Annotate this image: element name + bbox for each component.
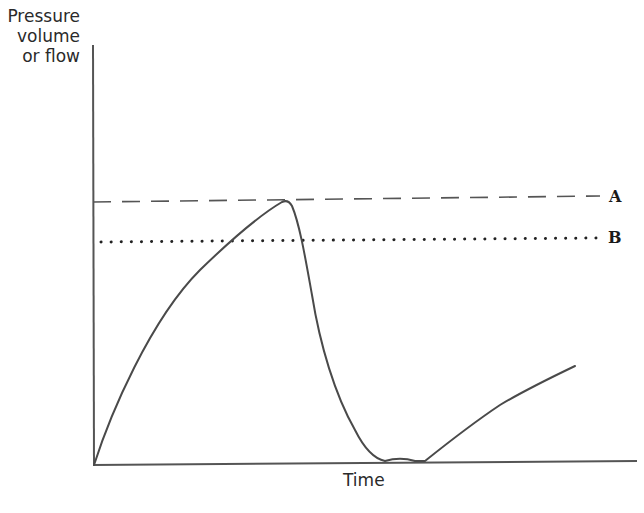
x-axis xyxy=(93,461,637,465)
reference-line-a-label: A xyxy=(609,187,621,206)
x-axis-label: Time xyxy=(343,470,385,490)
reference-line-b xyxy=(101,238,596,242)
y-axis-label-line-2: volume xyxy=(7,26,80,46)
y-axis-label: Pressure volume or flow xyxy=(7,6,80,66)
y-axis-label-line-3: or flow xyxy=(7,46,80,66)
y-axis xyxy=(93,45,94,466)
reference-line-a xyxy=(93,196,600,202)
y-axis-label-line-1: Pressure xyxy=(7,6,80,26)
reference-line-b-label: B xyxy=(608,228,622,247)
chart-plot xyxy=(0,0,644,513)
